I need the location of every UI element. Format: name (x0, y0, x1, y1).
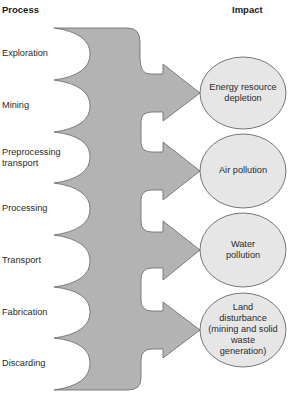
impact-label-line: Water (200, 239, 286, 250)
process-label-line: transport (2, 158, 61, 169)
process-label-line: Preprocessing (2, 147, 61, 158)
process-label-exploration: Exploration (2, 48, 48, 59)
process-label-discarding: Discarding (2, 358, 45, 369)
impact-label-line: Land (200, 302, 286, 313)
impact-label-air-pollution: Air pollution (200, 165, 286, 176)
impact-label-water-pollution: Water pollution (200, 239, 286, 261)
impact-label-land-disturbance: Land disturbance (mining and solid waste… (200, 302, 286, 357)
impact-label-line: (mining and solid (200, 324, 286, 335)
process-column-header: Process (2, 4, 39, 15)
impact-label-line: depletion (200, 93, 286, 104)
impact-label-energy-resource-depletion: Energy resource depletion (200, 82, 286, 104)
impact-label-line: pollution (200, 250, 286, 261)
process-label-transport: Transport (2, 255, 41, 266)
process-label-mining: Mining (2, 100, 29, 111)
impact-label-line: Air pollution (200, 165, 286, 176)
process-flow-body (54, 28, 200, 390)
process-label-preprocessing-transport: Preprocessing transport (2, 147, 61, 169)
impact-label-line: Energy resource (200, 82, 286, 93)
process-label-processing: Processing (2, 203, 47, 214)
impact-label-line: disturbance (200, 313, 286, 324)
process-impact-diagram: Process Impact Exploration Mining Prepro… (0, 0, 297, 402)
process-label-fabrication: Fabrication (2, 307, 47, 318)
impact-label-line: generation) (200, 346, 286, 357)
impact-label-line: waste (200, 335, 286, 346)
impact-column-header: Impact (232, 4, 263, 15)
